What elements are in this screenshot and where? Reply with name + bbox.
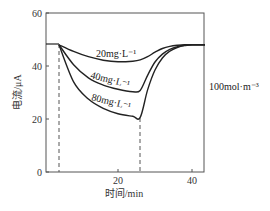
y-tick-40: 40 (32, 61, 42, 72)
x-tick-20: 20 (113, 175, 123, 186)
y-axis-title: 电流/μA (11, 74, 23, 110)
label-80mg: 80mg·L⁻¹ (91, 91, 133, 111)
y-axis: 0 20 40 60 电流/μA (11, 8, 49, 178)
x-tick-40: 40 (187, 175, 197, 186)
chart: 0 20 40 60 电流/μA 20 40 时间/min 20mg·L⁻¹ 4… (0, 0, 270, 211)
y-tick-20: 20 (32, 114, 42, 125)
label-20mg: 20mg·L⁻¹ (96, 48, 136, 59)
y-tick-60: 60 (32, 8, 42, 19)
label-40mg: 40mg·L⁻¹ (90, 69, 132, 89)
x-axis-title: 时间/min (105, 187, 143, 199)
concentration-annotation: 100mol·m⁻³ (209, 81, 259, 92)
y-tick-0: 0 (37, 167, 42, 178)
x-axis: 20 40 时间/min (105, 169, 197, 199)
plot-frame (46, 13, 204, 172)
